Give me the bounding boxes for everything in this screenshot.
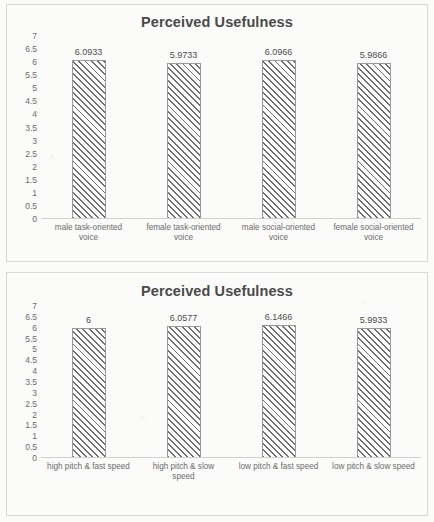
y-axis-tick: 1.5 [25, 421, 37, 430]
x-axis-line-bottom [41, 457, 421, 458]
bar-slot: 6.0577 [136, 306, 231, 458]
page-title-bottom: Perceived Usefulness [7, 283, 427, 299]
category-label-line: high pitch & fast speed [42, 462, 135, 472]
bar[interactable]: 5.9933 [357, 328, 391, 458]
chart-panel-pitch-speed: Perceived Usefulness 76.565.554.543.532.… [6, 272, 428, 516]
y-axis-tick: 3 [32, 389, 37, 398]
category-label-line: male task-oriented [42, 223, 135, 233]
bar[interactable]: 6.0966 [262, 60, 296, 219]
y-axis-tick: 3 [32, 136, 37, 145]
plot-area-top: 76.565.554.543.532.521.510.50 6.09335.97… [41, 36, 421, 219]
category-label-line: speed [137, 472, 230, 482]
y-axis-tick: 5.5 [25, 334, 37, 343]
y-axis-tick: 1.5 [25, 176, 37, 185]
x-axis-category-label: male social-orientedvoice [231, 223, 326, 244]
x-axis-categories-top: male task-orientedvoicefemale task-orien… [41, 223, 421, 244]
category-label-line: voice [232, 233, 325, 243]
y-axis-tick: 0 [32, 454, 37, 463]
bar-slot: 5.9933 [326, 306, 421, 458]
bar-value-label: 6.0577 [170, 314, 198, 323]
category-label-line: male social-oriented [232, 223, 325, 233]
y-axis-tick: 7 [32, 32, 37, 41]
bar-value-label: 5.9733 [170, 51, 198, 60]
bar-value-label: 6.0966 [265, 48, 293, 57]
bar[interactable]: 5.9733 [167, 63, 201, 219]
bar-slot: 6.1466 [231, 306, 326, 458]
y-axis-tick: 6 [32, 323, 37, 332]
y-axis-tick: 6.5 [25, 313, 37, 322]
y-axis-tick: 0.5 [25, 202, 37, 211]
bar[interactable]: 6.1466 [262, 325, 296, 458]
bar-value-label: 5.9866 [360, 51, 388, 60]
category-label-line: female social-oriented [327, 223, 420, 233]
y-axis-tick: 5 [32, 345, 37, 354]
bar-value-label: 6.1466 [265, 313, 293, 322]
chart-panel-voice-type: Perceived Usefulness 76.565.554.543.532.… [6, 4, 428, 262]
x-axis-category-label: high pitch & fast speed [41, 462, 136, 483]
y-axis-tick: 1 [32, 189, 37, 198]
page-title-top: Perceived Usefulness [7, 14, 427, 30]
x-axis-category-label: female social-orientedvoice [326, 223, 421, 244]
y-axis-tick: 2.5 [25, 149, 37, 158]
y-axis-tick: 4.5 [25, 356, 37, 365]
x-axis-line-top [41, 218, 421, 219]
y-axis-tick: 7 [32, 302, 37, 311]
y-axis-tick: 6 [32, 58, 37, 67]
bar-series-top: 6.09335.97336.09665.9866 [41, 36, 421, 219]
y-axis-tick: 4 [32, 110, 37, 119]
y-axis-tick: 0.5 [25, 443, 37, 452]
y-axis-tick: 1 [32, 432, 37, 441]
category-label-line: low pitch & fast speed [232, 462, 325, 472]
bar-value-label: 5.9933 [360, 316, 388, 325]
category-label-line: high pitch & slow [137, 462, 230, 472]
bar-slot: 6.0933 [41, 36, 136, 219]
bar[interactable]: 6 [72, 328, 106, 458]
bar-slot: 5.9733 [136, 36, 231, 219]
category-label-line: female task-oriented [137, 223, 230, 233]
bar-slot: 5.9866 [326, 36, 421, 219]
bar[interactable]: 6.0577 [167, 326, 201, 458]
y-axis-tick: 3.5 [25, 123, 37, 132]
y-axis-bottom: 76.565.554.543.532.521.510.50 [7, 306, 37, 458]
x-axis-category-label: low pitch & slow speed [326, 462, 421, 483]
category-label-line: low pitch & slow speed [327, 462, 420, 472]
y-axis-tick: 3.5 [25, 378, 37, 387]
bar-value-label: 6 [86, 316, 91, 325]
y-axis-tick: 6.5 [25, 45, 37, 54]
x-axis-category-label: female task-orientedvoice [136, 223, 231, 244]
y-axis-tick: 2.5 [25, 399, 37, 408]
y-axis-tick: 4 [32, 367, 37, 376]
bar-slot: 6 [41, 306, 136, 458]
plot-area-bottom: 76.565.554.543.532.521.510.50 66.05776.1… [41, 306, 421, 458]
category-label-line: voice [42, 233, 135, 243]
y-axis-tick: 4.5 [25, 97, 37, 106]
x-axis-category-label: high pitch & slowspeed [136, 462, 231, 483]
y-axis-tick: 0 [32, 215, 37, 224]
x-axis-categories-bottom: high pitch & fast speedhigh pitch & slow… [41, 462, 421, 483]
y-axis-tick: 2 [32, 162, 37, 171]
bar-series-bottom: 66.05776.14665.9933 [41, 306, 421, 458]
category-label-line: voice [327, 233, 420, 243]
y-axis-tick: 5.5 [25, 71, 37, 80]
y-axis-tick: 2 [32, 410, 37, 419]
y-axis-top: 76.565.554.543.532.521.510.50 [7, 36, 37, 219]
bar-value-label: 6.0933 [75, 48, 103, 57]
x-axis-category-label: low pitch & fast speed [231, 462, 326, 483]
bar[interactable]: 6.0933 [72, 60, 106, 219]
bar[interactable]: 5.9866 [357, 63, 391, 220]
x-axis-category-label: male task-orientedvoice [41, 223, 136, 244]
category-label-line: voice [137, 233, 230, 243]
bar-slot: 6.0966 [231, 36, 326, 219]
y-axis-tick: 5 [32, 84, 37, 93]
